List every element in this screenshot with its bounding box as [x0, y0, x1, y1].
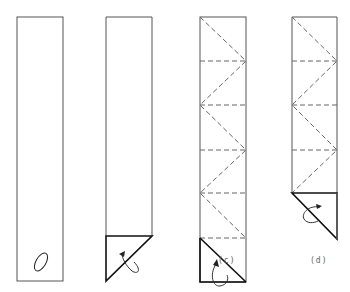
dashed-fold-lines — [292, 17, 337, 193]
arrowhead-icon — [316, 204, 322, 209]
paper-strip — [17, 17, 63, 281]
panel-b — [106, 17, 152, 281]
panel-d — [292, 17, 337, 239]
panel-a — [17, 17, 63, 281]
panel-label-c: (c) — [218, 256, 235, 265]
paper-strip — [292, 17, 337, 193]
panel-label-d: (d) — [310, 256, 327, 265]
folded-triangle — [292, 193, 337, 239]
loop-icon — [32, 251, 51, 273]
dashed-fold-lines — [200, 17, 246, 238]
origami-diagram — [0, 0, 350, 292]
paper-strip — [200, 17, 246, 282]
paper-strip — [106, 17, 152, 236]
turn-over-arrow-icon — [303, 207, 320, 223]
panel-c — [200, 17, 246, 286]
folded-triangle — [106, 236, 152, 281]
